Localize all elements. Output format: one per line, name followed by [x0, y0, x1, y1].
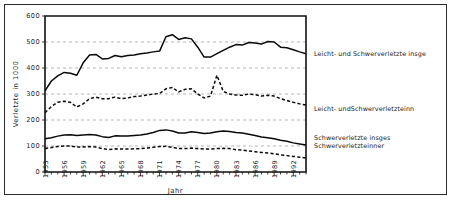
series-line-1	[45, 75, 306, 112]
x-tick-label: 1974	[175, 160, 183, 178]
injury-statistics-line-chart: 0100200300400500600 19531956195919621965…	[5, 5, 448, 196]
y-tick-label: 100	[26, 142, 40, 150]
y-tick-label: 0	[35, 168, 40, 176]
series-line-0	[45, 35, 306, 91]
x-tick-label: 1971	[156, 160, 164, 178]
x-tick-label: 1962	[99, 160, 107, 178]
x-tick-label: 1980	[213, 160, 221, 178]
legend-entry-1: Leicht- undSchwerverletzteinn	[314, 105, 414, 113]
x-tick-label: 1953	[42, 160, 50, 178]
legend-entry-0: Leicht- und Schwerverletzte insge	[314, 50, 426, 58]
x-tick-label: 1986	[252, 160, 260, 178]
x-tick-label: 1959	[80, 160, 88, 178]
legend: Leicht- und Schwerverletzte insgeLeicht-…	[314, 50, 426, 150]
series-line-3	[45, 146, 306, 158]
y-tick-label: 600	[26, 12, 40, 20]
y-tick-label: 500	[26, 38, 40, 46]
legend-entry-3: Schwerverletzteinner	[314, 142, 384, 150]
legend-entry-2: Schwerverletzte insges	[314, 134, 391, 142]
x-tick-label: 1992	[290, 160, 298, 178]
y-axis-title: Verletzte in 1000	[12, 61, 20, 128]
x-tick-label: 1965	[118, 160, 126, 178]
x-axis-tick-labels: 1953195619591962196519681971197419771980…	[42, 160, 298, 178]
y-tick-label: 300	[26, 90, 40, 98]
data-series	[45, 35, 306, 158]
x-tick-label: 1989	[271, 160, 279, 178]
y-tick-label: 400	[26, 64, 40, 72]
series-line-2	[45, 130, 306, 145]
x-tick-label: 1983	[233, 160, 241, 178]
gridlines	[45, 42, 306, 146]
x-axis-title: Jahr	[167, 187, 183, 195]
y-axis-tick-labels: 0100200300400500600	[26, 12, 40, 176]
x-tick-label: 1968	[137, 160, 145, 178]
chart-outer-frame: 0100200300400500600 19531956195919621965…	[4, 4, 447, 195]
y-tick-label: 200	[26, 116, 40, 124]
x-tick-label: 1956	[61, 160, 69, 178]
chart-container: 0100200300400500600 19531956195919621965…	[5, 5, 448, 196]
x-tick-label: 1977	[194, 160, 202, 178]
